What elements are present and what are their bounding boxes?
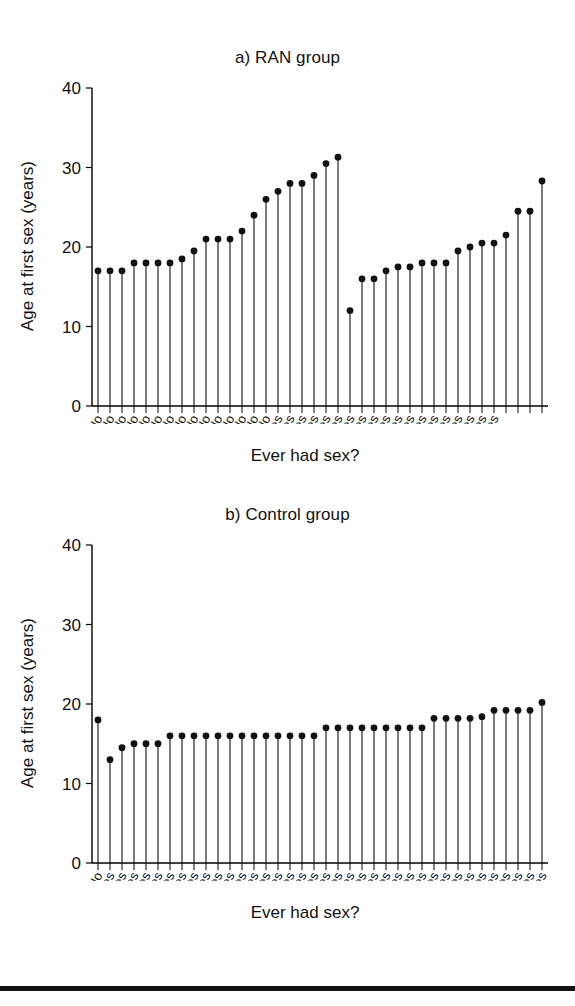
panel-b-stem-point [275, 732, 282, 863]
panel-b-stem-point [299, 732, 306, 863]
panel-b-stem-point [167, 732, 174, 863]
panel-a-stem-chart: 010203040NoNoNoNoNoNoNoNoNoNoNoNoNoNoNoY… [0, 76, 575, 424]
panel-a-stem-point [479, 240, 486, 406]
panel-a-stem-point [131, 260, 138, 407]
panel-b-title: b) Control group [0, 505, 575, 525]
panel-a-stem-point [215, 236, 222, 406]
panel-a-stem-point [335, 154, 342, 406]
panel-b-stem-point [179, 732, 186, 863]
panel-b-stem-point [227, 732, 234, 863]
panel-b-stem-point [491, 707, 498, 863]
panel-a-stem-point [455, 248, 462, 406]
panel-a-stem-point [287, 180, 294, 406]
panel-a-stem-point [407, 263, 414, 406]
panel-a-stem-point [371, 275, 378, 406]
panel-a-stem-point [503, 232, 510, 406]
panel-b-stem-point [407, 724, 414, 863]
panel-a-stem-point [527, 208, 534, 406]
panel-a-stem-point [419, 260, 426, 407]
panel-b-stem-point [455, 715, 462, 863]
panel-a-stem-point [275, 188, 282, 406]
panel-b-stem-point [215, 732, 222, 863]
panel-b-stem-point [287, 732, 294, 863]
panel-a-stem-point [515, 208, 522, 406]
panel-a-stem-point [143, 260, 150, 407]
panel-b-ytick-label: 0 [72, 854, 81, 873]
panel-a-stem-point [299, 180, 306, 406]
panel-b-stem-point [371, 724, 378, 863]
panel-b-stem-point [527, 707, 534, 863]
panel-a-stem-point [203, 236, 210, 406]
panel-a-title: a) RAN group [0, 48, 575, 68]
panel-a-ytick-label: 0 [72, 397, 81, 416]
panel-b-stem-point [395, 724, 402, 863]
panel-b-stem-point [239, 732, 246, 863]
panel-b-plot-area: Age at first sex (years) 010203040NoYesY… [0, 533, 575, 881]
panel-b-stem-point [131, 740, 138, 863]
panel-b-stem-point [347, 724, 354, 863]
panel-b-ytick-label: 10 [62, 775, 81, 794]
panel-a-stem-point [167, 260, 174, 407]
panel-b-stem-chart: 010203040NoYesYesYesYesYesYesYesYesYesYe… [0, 533, 575, 881]
panel-b-ytick-label: 40 [62, 536, 81, 555]
panel-a-stem-point [227, 236, 234, 406]
panel-b-stem-point [119, 744, 126, 863]
panel-b-stem-point [143, 740, 150, 863]
panel-a-stem-point [383, 267, 390, 406]
panel-b-ytick-label: 30 [62, 616, 81, 635]
panel-a-stem-point [239, 228, 246, 406]
panel-a-stem-point [179, 256, 186, 406]
panel-b-stem-point [323, 724, 330, 863]
panel-a-stem-point [443, 260, 450, 407]
panel-a-stem-point [107, 267, 114, 406]
panel-a-stem-point [251, 212, 258, 406]
panel-b-stem-point [95, 717, 102, 864]
panel-a-stem-point [323, 160, 330, 406]
panel-b-stem-point [191, 732, 198, 863]
panel-b-stem-point [479, 713, 486, 863]
panel-a-stem-point [119, 267, 126, 406]
panel-b-stem-point [467, 715, 474, 863]
panel-b-x-axis-label: Ever had sex? [60, 903, 550, 923]
panel-control-group: b) Control group Age at first sex (years… [0, 505, 575, 945]
panel-a-stem-point [395, 263, 402, 406]
panel-a-stem-point [491, 240, 498, 406]
panel-a-stem-point [467, 244, 474, 406]
figure-root: a) RAN group Age at first sex (years) 01… [0, 0, 575, 1006]
panel-a-stem-point [347, 307, 354, 406]
panel-b-stem-point [539, 699, 546, 863]
panel-b-y-axis-label: Age at first sex (years) [18, 553, 38, 853]
panel-a-ytick-label: 20 [62, 238, 81, 257]
panel-b-stem-point [503, 707, 510, 863]
panel-a-stem-point [191, 248, 198, 406]
panel-a-ytick-label: 10 [62, 318, 81, 337]
panel-b-ytick-label: 20 [62, 695, 81, 714]
panel-a-ytick-label: 30 [62, 159, 81, 178]
panel-b-stem-point [443, 715, 450, 863]
panel-b-stem-point [251, 732, 258, 863]
panel-a-stem-point [431, 260, 438, 407]
panel-a-y-axis-label: Age at first sex (years) [18, 96, 38, 396]
bottom-rule-divider [0, 986, 575, 991]
panel-b-stem-point [263, 732, 270, 863]
panel-b-stem-point [311, 732, 318, 863]
panel-b-stem-point [431, 715, 438, 863]
panel-a-stem-point [311, 172, 318, 406]
panel-a-stem-point [263, 196, 270, 406]
panel-a-stem-point [95, 267, 102, 406]
panel-a-ytick-label: 40 [62, 79, 81, 98]
panel-b-stem-point [203, 732, 210, 863]
panel-a-x-axis-label: Ever had sex? [60, 446, 550, 466]
panel-b-stem-point [383, 724, 390, 863]
panel-b-stem-point [107, 756, 114, 863]
panel-ran-group: a) RAN group Age at first sex (years) 01… [0, 48, 575, 488]
panel-a-plot-area: Age at first sex (years) 010203040NoNoNo… [0, 76, 575, 424]
panel-b-stem-point [359, 724, 366, 863]
panel-b-stem-point [335, 724, 342, 863]
panel-b-stem-point [515, 707, 522, 863]
panel-a-stem-point [155, 260, 162, 407]
panel-b-stem-point [155, 740, 162, 863]
panel-b-stem-point [419, 724, 426, 863]
panel-a-stem-point [539, 178, 546, 406]
panel-a-stem-point [359, 275, 366, 406]
